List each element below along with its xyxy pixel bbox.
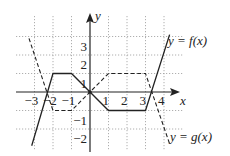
y-tick-label: −2 <box>73 131 87 146</box>
x-tick-label: −1 <box>62 93 76 108</box>
grid <box>16 16 184 150</box>
x-tick-label: 2 <box>121 93 128 108</box>
f-annotation: y = f(x) <box>166 33 207 48</box>
y-tick-label: −1 <box>73 113 87 128</box>
x-tick-label: −2 <box>43 93 57 108</box>
x-tick-labels: −3−2−11234 <box>25 93 166 108</box>
function-graph: x y −3−2−11234 −2−1123 y = f(x) y = g(x) <box>0 0 230 156</box>
y-axis-label: y <box>93 8 101 23</box>
y-tick-label: 3 <box>81 39 88 54</box>
x-tick-label: 4 <box>158 93 165 108</box>
g-curve <box>29 38 170 143</box>
y-tick-label: 1 <box>81 76 88 91</box>
origin-point <box>88 90 92 94</box>
g-annotation: y = g(x) <box>168 129 212 144</box>
x-tick-label: 3 <box>140 93 147 108</box>
y-tick-label: 2 <box>81 57 88 72</box>
x-tick-label: 1 <box>103 93 110 108</box>
x-axis-label: x <box>179 93 186 108</box>
x-tick-label: −3 <box>25 93 39 108</box>
